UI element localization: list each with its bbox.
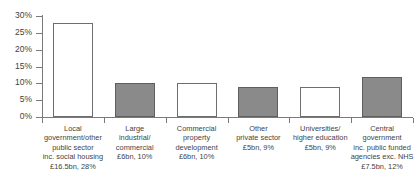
x-axis-category-label-line: public sector (40, 143, 106, 152)
x-axis-category-label-line: Large (102, 124, 168, 133)
y-axis-tick-label: 25% (15, 28, 32, 37)
y-axis-tick-label: 10% (15, 78, 32, 87)
y-axis-tick-label: 5% (20, 95, 32, 104)
x-axis-category-labels: Localgovernment/otherpublic sectorinc. s… (42, 124, 413, 182)
x-axis-category-label-line: £7.5bn, 12% (349, 162, 415, 171)
x-axis-category-label-line: commercial (102, 143, 168, 152)
x-axis-category-label-line: higher education (287, 133, 353, 142)
bar-chart: 0%5%10%15%20%25%30% Localgovernment/othe… (0, 0, 419, 182)
x-axis-category-label-line: development (164, 143, 230, 152)
x-axis-category-label-line: £5bn, 9% (287, 143, 353, 152)
x-axis-category-label-line: inc. social housing (40, 152, 106, 161)
x-axis-tick (413, 118, 414, 123)
bar (362, 77, 402, 117)
x-axis-category-label-line: government/other (40, 133, 106, 142)
bar (238, 87, 278, 117)
x-axis-category-label-line: government (349, 133, 415, 142)
x-axis-category-label-line: property (164, 133, 230, 142)
x-axis-category-label-line: industrial/ (102, 133, 168, 142)
x-axis-category-label-line: £6bn, 10% (102, 152, 168, 161)
x-axis-tick (104, 118, 105, 123)
y-axis-tick-label: 20% (15, 45, 32, 54)
x-axis-category-label-line: inc. public funded (349, 143, 415, 152)
bar (115, 83, 155, 117)
x-axis-category-label-line: Universities/ (287, 124, 353, 133)
x-axis-category-label-line: Other (226, 124, 292, 133)
x-axis-category-label-line: £6bn, 10% (164, 152, 230, 161)
x-axis-category-label: Largeindustrial/commercial£6bn, 10% (102, 124, 168, 162)
x-axis-category-label-line: private sector (226, 133, 292, 142)
bar (300, 87, 340, 117)
x-axis-category-label-line: £5bn, 9% (226, 143, 292, 152)
x-axis-category-label-line: Central (349, 124, 415, 133)
y-axis-tick-label: 15% (15, 62, 32, 71)
x-axis-category-label-line: Commercial (164, 124, 230, 133)
x-axis-tick (166, 118, 167, 123)
x-axis-category-label: Centralgovernmentinc. public fundedagenc… (349, 124, 415, 171)
x-axis-category-label: Otherprivate sector£5bn, 9% (226, 124, 292, 152)
x-axis-category-label-line: Local (40, 124, 106, 133)
x-axis-tick (289, 118, 290, 123)
y-axis-tick-label: 30% (15, 11, 32, 20)
x-axis-category-label: Localgovernment/otherpublic sectorinc. s… (40, 124, 106, 171)
bar (53, 23, 93, 117)
x-axis-tick (42, 118, 43, 123)
x-axis-category-label: Universities/higher education£5bn, 9% (287, 124, 353, 152)
bar (177, 83, 217, 117)
y-axis-tick-label: 0% (20, 112, 32, 121)
x-axis-category-label: Commercialpropertydevelopment£6bn, 10% (164, 124, 230, 162)
x-axis-category-label-line: agencies exc. NHS (349, 152, 415, 161)
x-axis-tick (228, 118, 229, 123)
plot-area (42, 16, 413, 117)
x-axis-tick (351, 118, 352, 123)
x-axis-category-label-line: £16.5bn, 28% (40, 162, 106, 171)
